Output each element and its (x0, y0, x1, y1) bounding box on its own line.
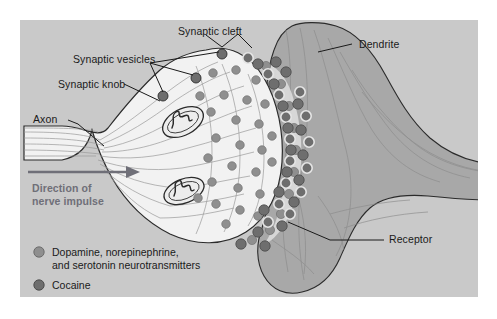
label-direction-line2: nerve impulse (32, 195, 104, 208)
label-receptor: Receptor (389, 233, 432, 245)
label-dendrite: Dendrite (359, 38, 400, 50)
label-axon: Axon (33, 113, 57, 125)
legend-neurotransmitter-line1: Dopamine, norepinephrine, (52, 246, 179, 259)
label-synaptic-cleft: Synaptic cleft (178, 25, 242, 37)
label-direction-line1: Direction of (32, 182, 92, 195)
label-synaptic-vesicles: Synaptic vesicles (73, 53, 155, 65)
label-synaptic-knob: Synaptic knob (58, 78, 125, 90)
legend-neurotransmitter-line2: and serotonin neurotransmitters (52, 259, 200, 272)
figure-root: Synaptic cleft Synaptic vesicles Synapti… (0, 0, 497, 319)
legend-cocaine-line1: Cocaine (52, 279, 91, 292)
